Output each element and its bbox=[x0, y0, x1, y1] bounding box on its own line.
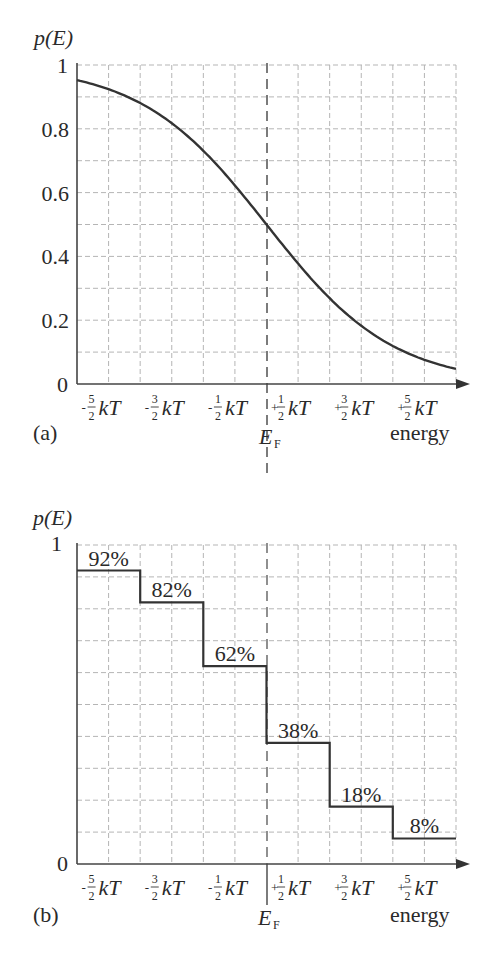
fermi-label-a: E bbox=[258, 424, 273, 449]
step-label: 92% bbox=[88, 546, 128, 571]
svg-text:2: 2 bbox=[404, 889, 410, 903]
ylabel-a: p(E) bbox=[32, 25, 73, 50]
svg-text:kT: kT bbox=[351, 875, 375, 900]
svg-text:kT: kT bbox=[414, 875, 438, 900]
xlabel-a: energy bbox=[390, 420, 449, 445]
svg-text:2: 2 bbox=[215, 889, 221, 903]
svg-text:-: - bbox=[145, 880, 149, 895]
y-tick-b-1: 1 bbox=[51, 531, 62, 556]
x-tick-label: +32kT bbox=[334, 392, 375, 423]
x-tick-label: -52kT bbox=[82, 392, 123, 423]
ylabel-b: p(E) bbox=[31, 505, 72, 530]
x-tick-label: -52kT bbox=[82, 872, 123, 903]
svg-text:2: 2 bbox=[278, 409, 284, 423]
svg-text:3: 3 bbox=[152, 872, 158, 886]
x-tick-label: -32kT bbox=[145, 872, 186, 903]
svg-text:kT: kT bbox=[351, 395, 375, 420]
svg-text:kT: kT bbox=[162, 875, 186, 900]
x-tick-label: +52kT bbox=[397, 872, 438, 903]
x-axis-arrow-a bbox=[456, 379, 470, 389]
svg-text:2: 2 bbox=[89, 889, 95, 903]
x-tick-label: +12kT bbox=[271, 392, 312, 423]
panel-label-a: (a) bbox=[33, 420, 57, 445]
svg-text:1: 1 bbox=[215, 872, 221, 886]
panel-a: p(E) 10.80.60.40.20 -52kT-32kT-12kT+12kT… bbox=[32, 25, 470, 478]
svg-text:2: 2 bbox=[215, 409, 221, 423]
svg-text:5: 5 bbox=[89, 872, 95, 886]
y-tick-label: 0 bbox=[57, 372, 68, 397]
xlabel-b: energy bbox=[390, 902, 449, 927]
svg-text:-: - bbox=[82, 400, 86, 415]
x-tick-label: -32kT bbox=[145, 392, 186, 423]
figure-canvas: p(E) 10.80.60.40.20 -52kT-32kT-12kT+12kT… bbox=[0, 0, 486, 965]
fermi-sub-b: F bbox=[273, 918, 280, 932]
x-tick-label: +12kT bbox=[271, 872, 312, 903]
svg-text:2: 2 bbox=[152, 409, 158, 423]
y-ticks-a: 10.80.60.40.20 bbox=[42, 53, 70, 397]
svg-text:5: 5 bbox=[404, 872, 410, 886]
svg-text:kT: kT bbox=[288, 875, 312, 900]
svg-text:2: 2 bbox=[341, 889, 347, 903]
y-tick-b-0: 0 bbox=[57, 851, 68, 876]
step-label: 62% bbox=[215, 641, 255, 666]
x-tick-label: -12kT bbox=[208, 392, 249, 423]
svg-text:3: 3 bbox=[341, 392, 347, 406]
x-ticks-b: -52kT-32kT-12kT+12kT+32kT+52kT bbox=[82, 872, 439, 903]
step-label: 18% bbox=[341, 782, 381, 807]
svg-text:2: 2 bbox=[341, 409, 347, 423]
panel-b: 92%82%62%38%18%8% p(E) 1 0 -52kT-32kT-12… bbox=[31, 505, 470, 932]
svg-text:-: - bbox=[208, 400, 212, 415]
svg-text:kT: kT bbox=[99, 875, 123, 900]
svg-text:kT: kT bbox=[225, 875, 249, 900]
svg-text:-: - bbox=[145, 400, 149, 415]
x-tick-label: -12kT bbox=[208, 872, 249, 903]
step-label: 8% bbox=[410, 813, 439, 838]
svg-text:-: - bbox=[82, 880, 86, 895]
x-ticks-a: -52kT-32kT-12kT+12kT+32kT+52kT bbox=[82, 392, 439, 423]
svg-text:kT: kT bbox=[288, 395, 312, 420]
y-tick-label: 0.4 bbox=[42, 244, 70, 269]
svg-text:2: 2 bbox=[278, 889, 284, 903]
x-axis-arrow-b bbox=[456, 859, 470, 869]
x-tick-label: +32kT bbox=[334, 872, 375, 903]
y-tick-label: 0.6 bbox=[42, 181, 70, 206]
svg-text:3: 3 bbox=[341, 872, 347, 886]
svg-text:2: 2 bbox=[152, 889, 158, 903]
fermi-label-b: E bbox=[257, 905, 272, 930]
svg-text:1: 1 bbox=[278, 872, 284, 886]
fermi-sub-a: F bbox=[274, 437, 281, 451]
svg-text:kT: kT bbox=[225, 395, 249, 420]
y-tick-label: 1 bbox=[57, 53, 68, 78]
svg-text:1: 1 bbox=[215, 392, 221, 406]
svg-text:kT: kT bbox=[162, 395, 186, 420]
step-label: 38% bbox=[278, 718, 318, 743]
svg-text:kT: kT bbox=[414, 395, 438, 420]
svg-text:3: 3 bbox=[152, 392, 158, 406]
svg-text:-: - bbox=[208, 880, 212, 895]
x-tick-label: +52kT bbox=[397, 392, 438, 423]
y-tick-label: 0.2 bbox=[42, 308, 70, 333]
svg-text:5: 5 bbox=[89, 392, 95, 406]
y-tick-label: 0.8 bbox=[42, 117, 70, 142]
panel-label-b: (b) bbox=[33, 902, 59, 927]
svg-text:2: 2 bbox=[89, 409, 95, 423]
svg-text:kT: kT bbox=[99, 395, 123, 420]
step-label: 82% bbox=[152, 577, 192, 602]
svg-text:5: 5 bbox=[404, 392, 410, 406]
svg-text:1: 1 bbox=[278, 392, 284, 406]
